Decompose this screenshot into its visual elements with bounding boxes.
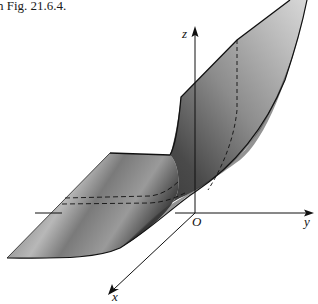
y-axis-label: y — [304, 214, 310, 230]
surface-figure — [0, 0, 318, 304]
origin-label: O — [192, 214, 201, 230]
surface-flat-region — [7, 153, 179, 258]
z-axis-label: z — [182, 26, 187, 42]
x-axis-label: x — [112, 289, 118, 304]
